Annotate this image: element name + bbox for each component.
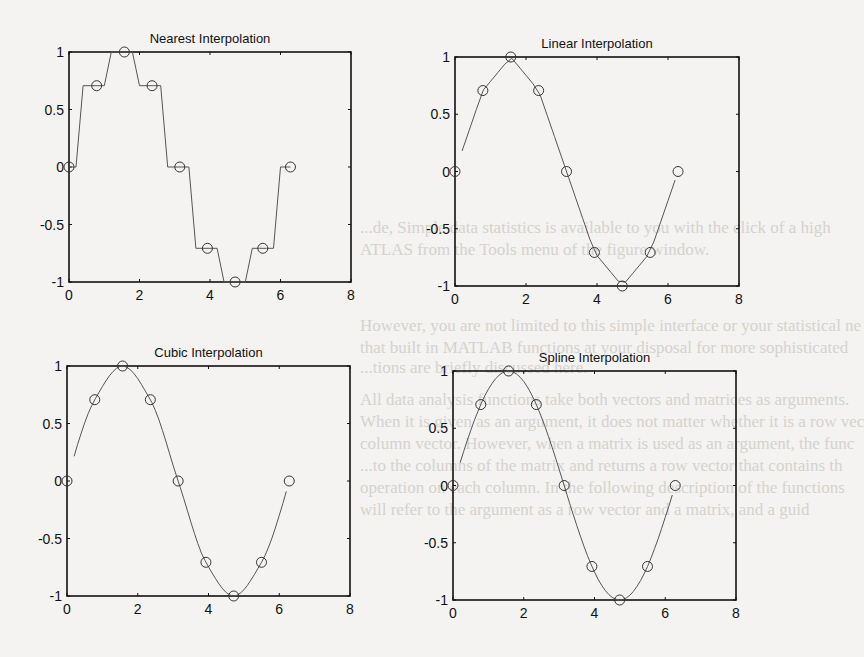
y-tick-label: -1 xyxy=(438,278,451,294)
plot-cubic: Cubic Interpolation0246810.50-0.5-1 xyxy=(38,345,354,617)
x-tick-label: 0 xyxy=(63,601,71,617)
interpolated-curve xyxy=(74,366,286,596)
chart-title: Spline Interpolation xyxy=(539,350,650,365)
chart-title: Cubic Interpolation xyxy=(154,345,262,360)
y-tick-label: -0.5 xyxy=(426,221,450,237)
interpolated-curve xyxy=(69,52,291,282)
y-tick-label: 0 xyxy=(56,159,64,175)
x-tick-label: 6 xyxy=(664,291,672,307)
y-tick-label: 0 xyxy=(440,478,448,494)
x-tick-label: 4 xyxy=(205,601,213,617)
y-tick-label: 1 xyxy=(56,44,64,60)
x-tick-label: 0 xyxy=(65,287,73,303)
x-tick-label: 0 xyxy=(449,605,457,621)
data-point-marker xyxy=(670,481,680,491)
y-tick-label: -0.5 xyxy=(424,535,448,551)
axes-box xyxy=(67,366,350,596)
y-tick-label: -0.5 xyxy=(38,531,62,547)
y-tick-label: 0.5 xyxy=(431,106,451,122)
y-tick-label: 0.5 xyxy=(45,102,65,118)
x-tick-label: 4 xyxy=(206,287,214,303)
interpolated-curve xyxy=(460,371,672,600)
x-tick-label: 2 xyxy=(134,601,142,617)
y-tick-label: 0.5 xyxy=(43,416,63,432)
data-point-marker xyxy=(534,86,544,96)
x-tick-label: 4 xyxy=(591,605,599,621)
x-tick-label: 6 xyxy=(661,605,669,621)
x-tick-label: 8 xyxy=(347,287,355,303)
y-tick-label: -1 xyxy=(436,592,449,608)
y-tick-label: -1 xyxy=(52,274,65,290)
y-tick-label: 0 xyxy=(442,164,450,180)
y-tick-label: 1 xyxy=(442,49,450,65)
chart-title: Linear Interpolation xyxy=(541,36,652,51)
axes-box xyxy=(453,371,736,600)
x-tick-label: 6 xyxy=(277,287,285,303)
y-tick-label: -1 xyxy=(50,588,63,604)
x-tick-label: 2 xyxy=(136,287,144,303)
x-tick-label: 4 xyxy=(593,291,601,307)
y-tick-label: -0.5 xyxy=(40,217,64,233)
x-tick-label: 2 xyxy=(522,291,530,307)
data-point-marker xyxy=(284,476,294,486)
y-tick-label: 0.5 xyxy=(429,420,449,436)
data-point-marker xyxy=(673,167,683,177)
x-tick-label: 0 xyxy=(451,291,459,307)
plot-linear: Linear Interpolation0246810.50-0.5-1 xyxy=(426,36,743,307)
x-tick-label: 8 xyxy=(346,601,354,617)
x-tick-label: 6 xyxy=(275,601,283,617)
x-tick-label: 8 xyxy=(732,605,740,621)
interpolated-curve xyxy=(462,58,675,282)
y-tick-label: 1 xyxy=(54,358,62,374)
x-tick-label: 8 xyxy=(735,291,743,307)
chart-title: Nearest Interpolation xyxy=(150,31,271,46)
plot-spline: Spline Interpolation0246810.50-0.5-1 xyxy=(424,350,740,621)
x-tick-label: 2 xyxy=(520,605,528,621)
y-tick-label: 1 xyxy=(440,363,448,379)
axes-box xyxy=(69,52,351,282)
plot-nearest: Nearest Interpolation0246810.50-0.5-1 xyxy=(40,31,355,303)
y-tick-label: 0 xyxy=(54,473,62,489)
axes-box xyxy=(455,57,739,286)
